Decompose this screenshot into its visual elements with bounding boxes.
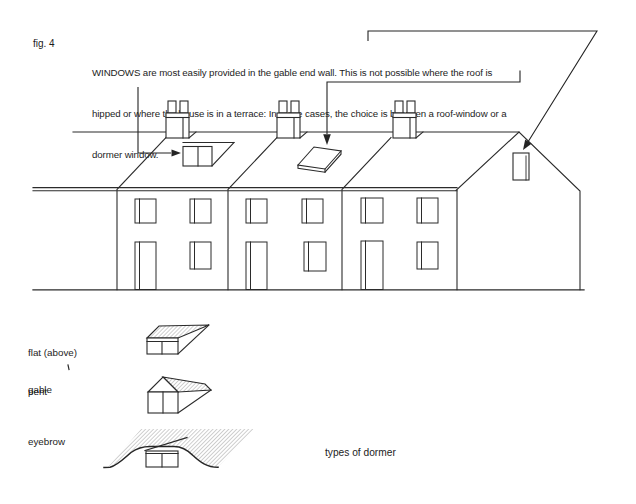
- eyebrow-dormer-illustration: [104, 429, 254, 468]
- label-flat-pent: flat (above) pent: [28, 320, 77, 424]
- label-gable: gable: [28, 384, 52, 395]
- door: [361, 241, 383, 290]
- gable-end-window: [513, 153, 529, 180]
- caption-line-1: WINDOWS are most easily provided in the …: [92, 66, 506, 80]
- figure-number: fig. 4: [33, 38, 55, 49]
- types-of-dormer-caption: types of dormer: [325, 447, 396, 458]
- house-facade-3: [361, 198, 438, 290]
- figure-page: fig. 4 WINDOWS are most easily provided …: [0, 0, 636, 504]
- label-flat-line-1: flat (above): [28, 346, 77, 359]
- eyebrow-curve: [104, 447, 218, 468]
- door: [135, 242, 156, 290]
- party-walls: [117, 191, 342, 290]
- caption-line-2: hipped or where the house is in a terrac…: [92, 107, 506, 121]
- label-eyebrow: eyebrow: [28, 436, 65, 447]
- arrowhead-diagonal-icon: [523, 139, 532, 150]
- gable-dormer-illustration: [148, 377, 211, 413]
- door: [246, 242, 267, 290]
- pent-dormer-illustration: [147, 325, 209, 354]
- figure-caption: WINDOWS are most easily provided in the …: [92, 38, 506, 190]
- dormer-type-illustrations: [68, 325, 254, 468]
- house-facade-2: [246, 199, 326, 290]
- house-facade-1: [135, 199, 211, 290]
- caption-line-3: dormer window.: [92, 148, 506, 162]
